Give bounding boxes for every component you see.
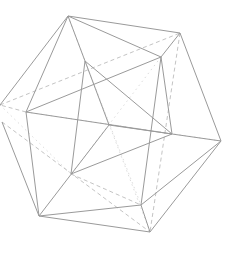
solid-edge-B-H (180, 33, 221, 141)
solid-edge-L-M (141, 205, 150, 232)
solid-edge-G-K (39, 125, 109, 216)
solid-edge-I-H (172, 134, 221, 141)
visible-edges (0, 16, 221, 232)
icosahedron-diagram (0, 0, 241, 254)
solid-edge-H-L (141, 141, 221, 205)
dotted-edge-F-J (0, 105, 71, 174)
solid-edge-D-J (71, 61, 85, 174)
hidden-edges-dashed (0, 33, 180, 232)
dashed-edge-F2-M (2, 122, 150, 232)
solid-edge-A-C (68, 16, 161, 57)
hidden-edges-dotted (0, 16, 221, 232)
solid-edge-H-M (150, 141, 221, 232)
solid-edge-K-M (39, 216, 150, 232)
solid-edge-A-B (68, 16, 180, 33)
